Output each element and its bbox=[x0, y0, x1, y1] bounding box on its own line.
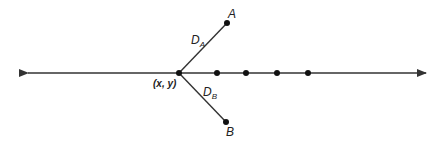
distance-b-main: D bbox=[203, 85, 212, 99]
line-dot-4 bbox=[305, 70, 311, 76]
origin-label: (x, y) bbox=[153, 78, 177, 89]
point-b-label: B bbox=[226, 125, 234, 139]
line-dot-1 bbox=[214, 70, 220, 76]
distance-a-main: D bbox=[191, 33, 200, 47]
distance-a-label: DA bbox=[191, 33, 205, 49]
distance-b-label: DB bbox=[203, 85, 218, 101]
line-dot-3 bbox=[274, 70, 280, 76]
diagram-canvas: A B (x, y) DA DB bbox=[0, 0, 447, 142]
line-dot-2 bbox=[243, 70, 249, 76]
point-a-label: A bbox=[227, 7, 236, 21]
origin-point bbox=[176, 70, 182, 76]
distance-b-sub: B bbox=[212, 92, 218, 101]
distance-a-sub: A bbox=[199, 40, 205, 49]
